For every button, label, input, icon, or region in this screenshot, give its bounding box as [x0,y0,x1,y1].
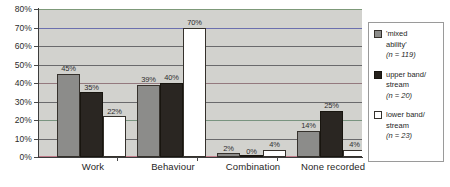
legend-item-mixed-ability: 'mixed ability' (n = 119) [374,29,439,61]
legend-sample-size: (n = 20) [386,91,412,100]
bar-value-label: 2% [217,145,240,153]
x-label-work: Work [57,161,129,172]
x-axis-line [38,157,363,158]
y-tick-label: 0% [20,153,33,161]
bar-group-combination: 2% 0% 4% [217,9,289,157]
bar-combination-lower-band [263,150,286,157]
y-tick-label: 60% [15,42,32,50]
plot-area: 45% 35% 22% 39% 40% 70% 2% 0% [39,9,362,157]
bar-value-label: 22% [103,108,126,116]
grouped-bar-chart: 80% 70% 60% 50% 40% 30% 20% 10% 0% [0,0,450,187]
legend-swatch-icon [374,111,382,119]
bar-group-work: 45% 35% 22% [57,9,129,157]
y-tick-label: 50% [15,61,32,69]
bar-value-label: 25% [320,102,343,110]
legend-label: upper band/ stream (n = 20) [386,70,426,102]
bar-value-label: 35% [80,84,103,92]
bar-value-label: 0% [240,148,263,156]
bar-work-lower-band [103,116,126,157]
bar-group-none-recorded: 14% 25% 4% [297,9,362,157]
y-tick-label: 10% [15,135,32,143]
x-axis-labels: Work Behaviour Combination None recorded [39,161,362,181]
bar-work-mixed-ability [57,74,80,157]
bar-combination-mixed-ability [217,153,240,157]
bar-group-behaviour: 39% 40% 70% [137,9,209,157]
legend-line-1: lower band/ [386,110,425,119]
y-tick-label: 70% [15,24,32,32]
legend-line-1: upper band/ [386,70,426,79]
bar-groups: 45% 35% 22% 39% 40% 70% 2% 0% [39,9,362,157]
bar-value-label: 70% [183,19,206,27]
y-axis: 80% 70% 60% 50% 40% 30% 20% 10% 0% [0,9,34,157]
legend-sample-size: (n = 119) [386,50,416,59]
legend-item-lower-band: lower band/ stream (n = 23) [374,110,439,142]
y-tick-label: 80% [15,5,32,13]
bar-behaviour-mixed-ability [137,85,160,157]
legend-line-2: ability' [386,40,407,49]
x-label-combination: Combination [213,161,293,172]
x-label-none-recorded: None recorded [291,161,375,172]
legend-line-2: stream [386,121,409,130]
bar-none-recorded-upper-band [320,111,343,157]
legend-sample-size: (n = 23) [386,131,412,140]
legend-swatch-icon [374,71,382,79]
bar-none-recorded-lower-band [343,150,362,157]
bar-value-label: 4% [263,141,286,149]
legend-line-2: stream [386,80,409,89]
chart-legend: 'mixed ability' (n = 119) upper band/ st… [368,22,444,162]
legend-item-upper-band: upper band/ stream (n = 20) [374,70,439,102]
y-tick-label: 40% [15,79,32,87]
bar-value-label: 45% [57,65,80,73]
bar-behaviour-upper-band [160,83,183,157]
legend-swatch-icon [374,30,382,38]
bar-none-recorded-mixed-ability [297,131,320,157]
legend-line-1: 'mixed [386,29,407,38]
bar-value-label: 39% [137,76,160,84]
bar-behaviour-lower-band [183,28,206,158]
legend-label: 'mixed ability' (n = 119) [386,29,416,61]
legend-label: lower band/ stream (n = 23) [386,110,425,142]
bar-value-label: 40% [160,74,183,82]
bar-work-upper-band [80,92,103,157]
bar-value-label: 4% [343,141,362,149]
y-tick-label: 20% [15,116,32,124]
y-tick-label: 30% [15,98,32,106]
bar-value-label: 14% [297,122,320,130]
x-label-behaviour: Behaviour [137,161,209,172]
